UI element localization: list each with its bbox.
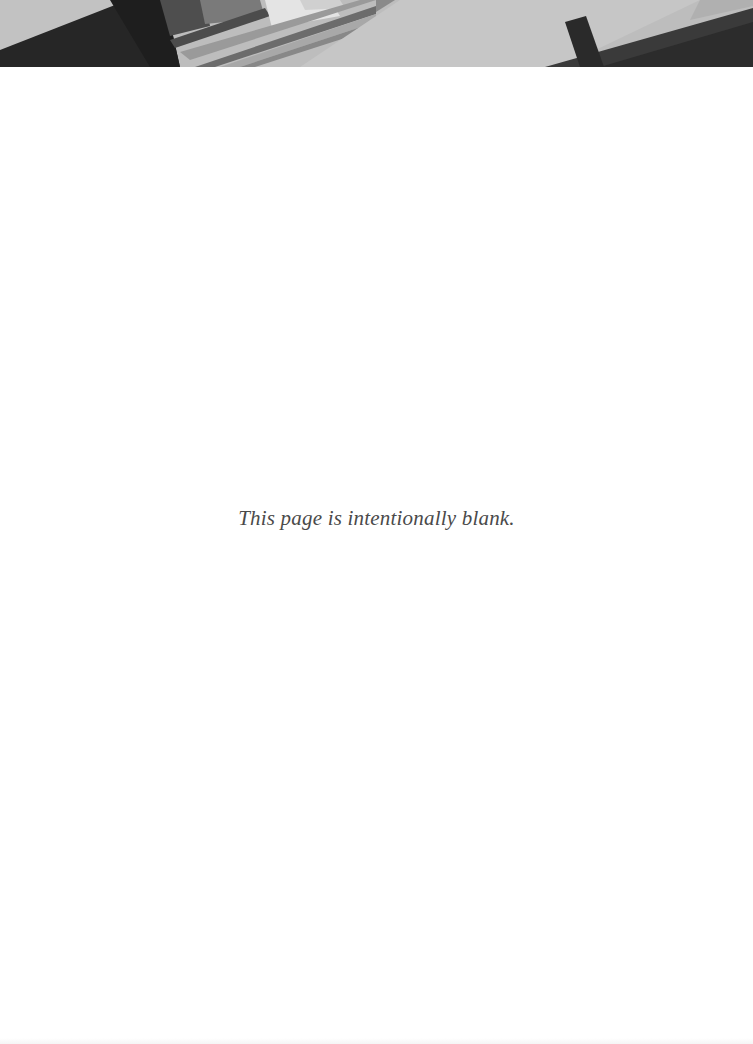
blank-page-notice: This page is intentionally blank.: [0, 506, 753, 531]
header-banner: [0, 0, 753, 67]
decorative-banner-graphic: [0, 0, 753, 67]
scan-edge-artifact: [0, 1038, 753, 1044]
